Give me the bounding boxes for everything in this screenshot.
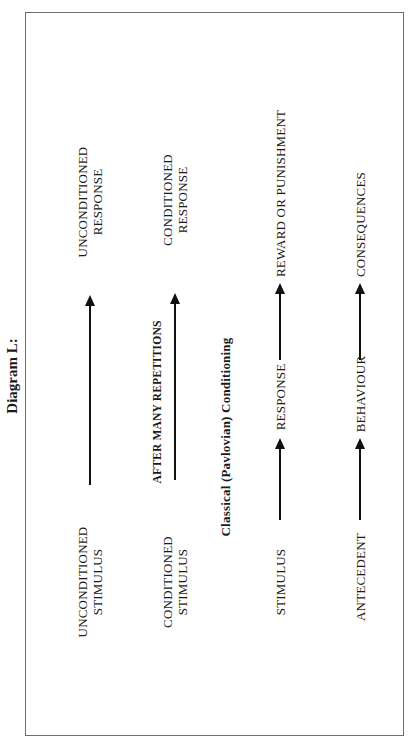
node-reward-or-punishment: REWARD OR PUNISHMENT <box>273 110 288 277</box>
node-line: RESPONSE <box>90 147 105 258</box>
node-line: UNCONDITIONED <box>75 527 90 638</box>
node-line: STIMULUS <box>90 527 105 638</box>
arrow-antecedent-behaviour <box>359 440 361 520</box>
diagram-canvas: UNCONDITIONED STIMULUS UNCONDITIONED RES… <box>25 12 405 737</box>
title-area: Diagram L: <box>0 0 24 752</box>
node-unconditioned-response: UNCONDITIONED RESPONSE <box>75 147 105 258</box>
caption-classical-conditioning: Classical (Pavlovian) Conditioning <box>218 338 233 537</box>
node-stimulus: STIMULUS <box>273 549 288 616</box>
node-line: UNCONDITIONED <box>75 147 90 258</box>
node-conditioned-stimulus: CONDITIONED STIMULUS <box>160 536 190 628</box>
node-unconditioned-stimulus: UNCONDITIONED STIMULUS <box>75 527 105 638</box>
node-antecedent: ANTECEDENT <box>353 533 368 621</box>
node-line: STIMULUS <box>175 536 190 628</box>
node-conditioned-response: CONDITIONED RESPONSE <box>160 154 190 246</box>
node-consequences: CONSEQUENCES <box>353 172 368 277</box>
node-response: RESPONSE <box>273 364 288 431</box>
node-line: CONDITIONED <box>160 536 175 628</box>
node-behaviour: BEHAVIOUR <box>353 356 368 433</box>
node-line: RESPONSE <box>175 154 190 246</box>
arrow-label-after-many-repetitions: AFTER MANY REPETITIONS <box>150 320 165 483</box>
arrow-response-reward <box>279 285 281 360</box>
arrow-unconditioned <box>89 297 91 485</box>
arrow-conditioned <box>174 295 176 480</box>
diagram-title: Diagram L: <box>4 338 21 413</box>
arrow-behaviour-consequences <box>359 285 361 360</box>
node-line: CONDITIONED <box>160 154 175 246</box>
arrow-stimulus-response <box>279 440 281 520</box>
